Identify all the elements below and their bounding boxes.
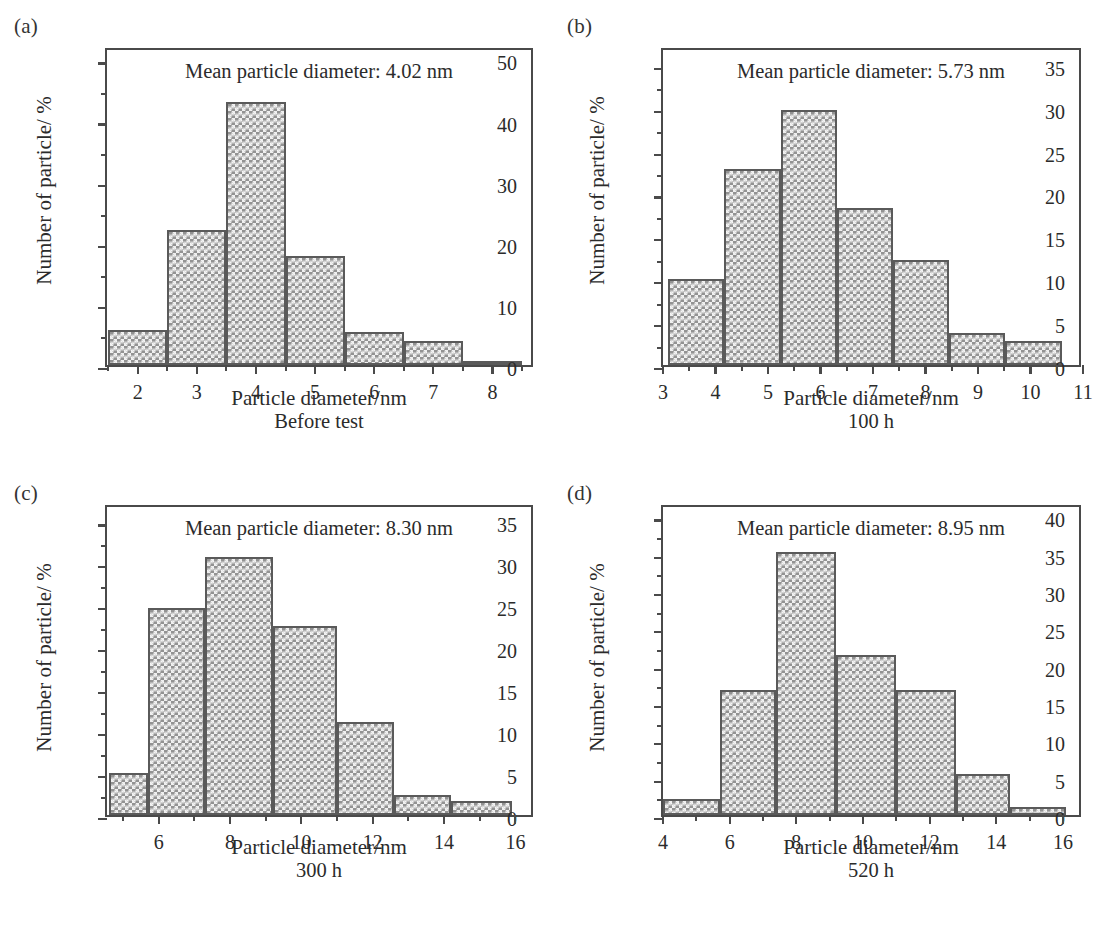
- x-axis-minor-tick: [225, 365, 227, 371]
- histogram-bar: [836, 655, 896, 815]
- y-axis-tick: [98, 608, 107, 610]
- x-axis-tick: [1082, 365, 1084, 374]
- histogram-bar: [109, 773, 148, 815]
- y-axis-minor-tick: [101, 713, 107, 715]
- x-axis-tick: [862, 815, 864, 824]
- y-axis-tick: [98, 246, 107, 248]
- y-axis-tick: [654, 519, 663, 521]
- histogram-bar: [1005, 341, 1062, 365]
- x-axis-minor-tick: [479, 815, 481, 821]
- y-axis-minor-tick: [101, 755, 107, 757]
- x-axis-minor-tick: [107, 365, 109, 371]
- condition-caption-a: Before test: [105, 410, 533, 434]
- y-axis-tick: [98, 692, 107, 694]
- x-axis-minor-tick: [895, 815, 897, 821]
- bar-series-a: [107, 50, 531, 365]
- plot-area-d: Mean particle diameter: 8.95 nm 05101520…: [661, 505, 1081, 817]
- y-axis-tick-label: 20: [1045, 186, 1065, 209]
- x-axis-title-a: Particle diameter/nm: [231, 386, 407, 410]
- x-axis-minor-tick: [462, 365, 464, 371]
- x-axis-minor-tick: [285, 365, 287, 371]
- y-axis-tick-label: 40: [1045, 509, 1065, 532]
- y-axis-tick: [98, 776, 107, 778]
- x-axis-minor-tick: [688, 365, 690, 371]
- histogram-bar: [781, 110, 837, 365]
- y-axis-tick: [654, 196, 663, 198]
- x-axis-minor-tick: [166, 365, 168, 371]
- y-axis-minor-tick: [657, 687, 663, 689]
- histogram-bar: [148, 608, 205, 815]
- y-axis-tick-label: 35: [1045, 546, 1065, 569]
- y-axis-minor-tick: [657, 347, 663, 349]
- x-axis-tick: [229, 815, 231, 824]
- x-axis-tick: [314, 365, 316, 374]
- condition-caption-b: 100 h: [661, 410, 1081, 434]
- y-axis-tick: [654, 325, 663, 327]
- y-axis-tick-label: 20: [497, 640, 517, 663]
- y-axis-tick: [98, 818, 107, 820]
- y-axis-tick: [98, 566, 107, 568]
- x-axis-minor-tick: [829, 815, 831, 821]
- y-axis-tick-label: 40: [497, 113, 517, 136]
- x-axis-tick: [432, 365, 434, 374]
- y-axis-tick: [98, 123, 107, 125]
- y-axis-tick-label: 15: [1045, 229, 1065, 252]
- y-axis-tick: [654, 239, 663, 241]
- y-axis-minor-tick: [101, 215, 107, 217]
- x-axis-title-d: Particle diameter/nm: [783, 835, 959, 859]
- x-axis-minor-tick: [793, 365, 795, 371]
- y-axis-minor-tick: [657, 175, 663, 177]
- y-axis-tick: [654, 631, 663, 633]
- y-axis-minor-tick: [101, 797, 107, 799]
- panel-b: (b) Number of particle/ % Mean particle …: [553, 0, 1106, 467]
- y-axis-tick-label: 15: [1045, 696, 1065, 719]
- y-axis-minor-tick: [101, 154, 107, 156]
- histogram-bar: [345, 332, 404, 365]
- y-axis-minor-tick: [657, 575, 663, 577]
- y-axis-minor-tick: [101, 671, 107, 673]
- plot-area-a: Mean particle diameter: 4.02 nm 01020304…: [105, 48, 533, 367]
- y-axis-tick: [654, 68, 663, 70]
- y-axis-tick-label: 5: [1055, 315, 1065, 338]
- histogram-bar: [893, 260, 949, 365]
- x-axis-minor-tick: [193, 815, 195, 821]
- x-axis-tick: [300, 815, 302, 824]
- histogram-bar: [286, 256, 345, 365]
- plot-area-c: Mean particle diameter: 8.30 nm 05101520…: [105, 505, 533, 817]
- histogram-bar: [404, 341, 463, 365]
- x-axis-tick: [1029, 365, 1031, 374]
- histogram-bar: [273, 626, 337, 815]
- x-axis-tick: [255, 365, 257, 374]
- y-axis-minor-tick: [657, 218, 663, 220]
- x-axis-tick: [662, 815, 664, 824]
- x-axis-minor-tick: [265, 815, 267, 821]
- y-axis-tick-label: 5: [507, 766, 517, 789]
- y-axis-tick: [98, 368, 107, 370]
- y-axis-minor-tick: [101, 337, 107, 339]
- y-axis-tick: [98, 62, 107, 64]
- x-axis-tick: [767, 365, 769, 374]
- y-axis-tick-label: 30: [1045, 100, 1065, 123]
- x-axis-tick: [729, 815, 731, 824]
- x-axis-minor-tick: [403, 365, 405, 371]
- y-axis-tick-label: 30: [1045, 584, 1065, 607]
- y-axis-tick-label: 30: [497, 174, 517, 197]
- y-axis-tick-label: 20: [497, 235, 517, 258]
- histogram-bar: [837, 208, 893, 365]
- histogram-bar: [663, 799, 720, 815]
- x-axis-tick: [819, 365, 821, 374]
- x-axis-tick: [977, 365, 979, 374]
- y-axis-tick: [98, 734, 107, 736]
- bar-series-c: [107, 507, 531, 815]
- histogram-bar: [724, 169, 780, 365]
- y-axis-tick: [654, 669, 663, 671]
- x-axis-tick: [491, 365, 493, 374]
- histogram-bar: [668, 279, 724, 365]
- x-axis-tick: [373, 365, 375, 374]
- y-axis-tick: [654, 154, 663, 156]
- y-axis-minor-tick: [101, 276, 107, 278]
- plot-area-b: Mean particle diameter: 5.73 nm 05101520…: [661, 48, 1081, 367]
- y-axis-title-d: Number of particle/ %: [585, 518, 610, 798]
- y-axis-tick: [654, 557, 663, 559]
- x-axis-minor-tick: [962, 815, 964, 821]
